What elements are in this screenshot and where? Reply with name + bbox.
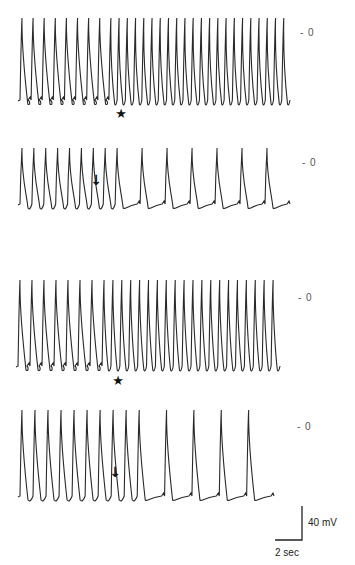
arrow-down-marker-icon: ↓ <box>90 172 102 188</box>
trace-3-waveform <box>16 280 280 371</box>
zero-level-label-4: - 0 <box>297 421 312 432</box>
arrow-down-marker-icon: ↓ <box>109 464 121 480</box>
scale-bar-voltage-label: 40 mV <box>308 517 337 528</box>
electrophysiology-figure: ★↓★↓ - 0 - 0 - 0 - 0 40 mV 2 sec <box>0 0 355 565</box>
trace-1: ★ <box>18 18 290 121</box>
trace-4-waveform <box>18 410 274 501</box>
star-marker-icon: ★ <box>112 373 124 388</box>
trace-3: ★ <box>16 280 280 388</box>
trace-2: ↓ <box>18 148 290 209</box>
trace-4: ↓ <box>18 410 274 501</box>
star-marker-icon: ★ <box>115 106 127 121</box>
zero-level-label-1: - 0 <box>300 27 315 38</box>
scale-bar-time-label: 2 sec <box>275 547 299 558</box>
zero-level-label-3: - 0 <box>298 292 313 303</box>
traces-canvas: ★↓★↓ <box>0 0 355 565</box>
trace-2-waveform <box>18 148 290 209</box>
scale-bar <box>275 506 302 540</box>
trace-1-waveform <box>18 18 290 105</box>
zero-level-label-2: - 0 <box>302 157 317 168</box>
